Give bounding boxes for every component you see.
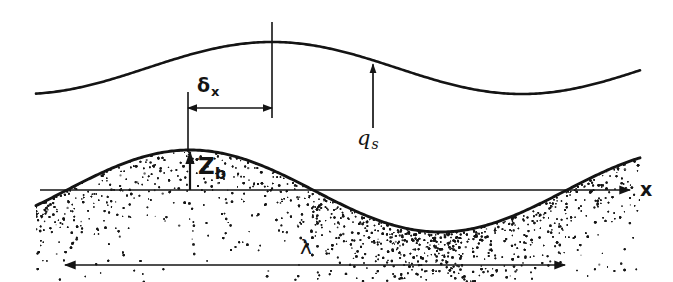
q-s-label: qs [357, 128, 379, 151]
z-b-label: Zb [198, 155, 226, 182]
figure-canvas [0, 0, 673, 282]
bedform-figure: δx Zb qs λ x [0, 0, 673, 282]
q-s-symbol: q [357, 126, 370, 150]
wavelength-label: λ [300, 237, 312, 257]
water-surface-curve [36, 42, 640, 94]
delta-x-subscript: x [210, 84, 219, 99]
delta-x-label: δx [197, 76, 219, 98]
sand-stipple-fill [35, 150, 641, 282]
z-b-symbol: Z [198, 153, 215, 179]
bed-surface-curve [36, 150, 640, 232]
q-s-subscript: s [370, 136, 378, 152]
delta-x-symbol: δ [197, 74, 210, 96]
x-axis-label: x [640, 180, 652, 199]
z-b-subscript: b [215, 164, 226, 183]
